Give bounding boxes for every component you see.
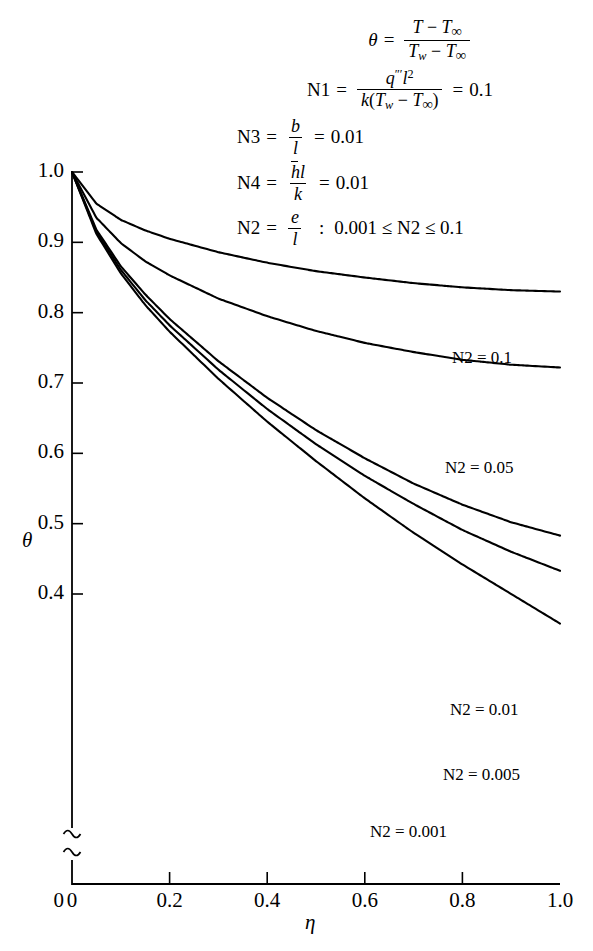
curve-1 <box>72 172 560 368</box>
curve-label-2: N2 = 0.01 <box>450 700 519 720</box>
x-axis-line <box>72 860 560 884</box>
curve-3 <box>72 172 560 571</box>
y-axis-title: θ <box>22 528 32 553</box>
axis-break-squiggle-lower <box>64 849 81 856</box>
figure-root: θ = T − T∞ Tw − T∞ N1 = q″′l2 k(Tw − T∞)… <box>0 0 593 951</box>
y-tick-label: 0.7 <box>4 369 64 394</box>
x-tick-label: 0 <box>32 888 112 913</box>
x-tick-label: 1.0 <box>520 888 593 913</box>
y-tick-label: 0.5 <box>4 510 64 535</box>
x-axis-title: η <box>305 910 315 935</box>
curve-0 <box>72 172 560 292</box>
y-tick-label: 0.8 <box>4 299 64 324</box>
axis-break-squiggle-upper <box>64 831 81 838</box>
x-tick-label: 0.6 <box>325 888 405 913</box>
x-tick-label: 0.4 <box>227 888 307 913</box>
curve-label-3: N2 = 0.005 <box>443 765 520 785</box>
y-tick-label: 0.4 <box>4 580 64 605</box>
curve-label-0: N2 = 0.1 <box>452 348 512 368</box>
x-tick-label: 0.2 <box>130 888 210 913</box>
curves-group <box>72 172 560 624</box>
x-tick-label: 0.8 <box>422 888 502 913</box>
curve-4 <box>72 172 560 624</box>
curve-label-4: N2 = 0.001 <box>370 822 447 842</box>
y-tick-label: 0.9 <box>4 228 64 253</box>
curve-label-1: N2 = 0.05 <box>445 458 514 478</box>
y-tick-label: 0.6 <box>4 439 64 464</box>
y-tick-label: 1.0 <box>4 158 64 183</box>
